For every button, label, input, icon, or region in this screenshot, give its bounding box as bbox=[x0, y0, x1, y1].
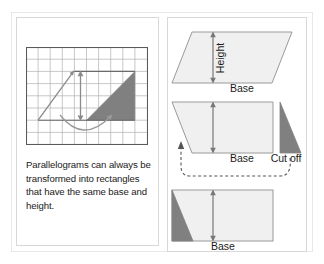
step-3-base-label: Base bbox=[192, 240, 254, 252]
cut-parallelogram-body bbox=[172, 102, 273, 153]
step-3-rectangle: Base bbox=[168, 186, 308, 252]
step-1-parallelogram: Height Base bbox=[168, 22, 308, 96]
grid-panel: Parallelograms can always be transformed… bbox=[16, 17, 159, 246]
step-1-base-label: Base bbox=[202, 82, 282, 94]
grid-diagram-svg bbox=[26, 47, 148, 145]
cut-off-triangle bbox=[280, 102, 301, 153]
cut-off-label: Cut off bbox=[264, 152, 308, 164]
figure-root: Parallelograms can always be transformed… bbox=[0, 0, 324, 264]
step-2-cut-off: Base Cut off bbox=[168, 96, 308, 186]
step-2-svg bbox=[168, 96, 308, 186]
caption-text: Parallelograms can always be transformed… bbox=[26, 158, 154, 212]
parallelogram-shape bbox=[172, 32, 292, 83]
slanted-side-arrow bbox=[38, 70, 74, 120]
height-label: Height bbox=[214, 43, 226, 73]
transformation-steps-panel: Height Base bbox=[167, 17, 307, 252]
grid-diagram bbox=[26, 47, 148, 145]
